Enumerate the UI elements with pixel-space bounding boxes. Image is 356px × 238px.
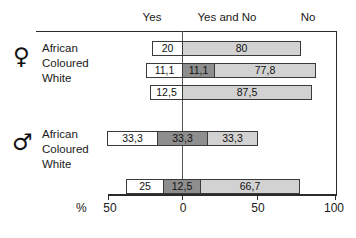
x-axis-line (108, 194, 337, 196)
male-gender-symbol-icon: ♂ (12, 131, 33, 154)
bar-segment-yes: 12,5 (150, 85, 183, 100)
bar-segment-yes-and-no: 12,5 (163, 179, 201, 194)
bar-segment-no: 87,5 (182, 85, 312, 100)
female-category-label-coloured: Coloured (42, 56, 89, 72)
bar-segment-yes-and-no: 11,1 (182, 63, 215, 78)
bar-segment-yes: 20 (152, 41, 183, 56)
bar-segment-no: 77,8 (214, 63, 316, 78)
male-category-label-african: African (42, 127, 78, 143)
bar-segment-yes: 33,3 (107, 131, 158, 146)
female-category-label-white: White (42, 71, 71, 87)
female-gender-symbol-icon: ♀ (13, 45, 30, 68)
bar-segment-no: 80 (182, 41, 301, 56)
bar-segment-yes: 11,1 (146, 63, 183, 78)
x-axis-tick-label: 50 (251, 201, 264, 215)
bar-segment-no: 66,7 (200, 179, 300, 194)
bar-segment-no: 33,3 (207, 131, 258, 146)
x-axis-tick (335, 194, 336, 200)
bar-segment-yes: 25 (126, 179, 164, 194)
stacked-bar-chart: Yes Yes and No No ♀ African Coloured Whi… (0, 0, 356, 238)
x-axis-tick (182, 194, 183, 200)
x-axis-tick-label: 0 (180, 201, 187, 215)
x-axis-tick-label: 50 (103, 201, 116, 215)
column-header-no: No (301, 11, 316, 23)
male-category-label-white: White (42, 157, 71, 173)
bar-segment-yes-and-no: 33,3 (157, 131, 208, 146)
male-category-label-coloured: Coloured (42, 142, 89, 158)
x-axis-tick (108, 194, 109, 200)
x-axis-tick-label: 100 (324, 201, 344, 215)
column-header-yes: Yes (143, 11, 162, 23)
female-category-label-african: African (42, 41, 78, 57)
x-axis-tick (257, 194, 258, 200)
column-header-yes-and-no: Yes and No (197, 11, 256, 23)
x-axis-unit-label: % (76, 201, 87, 215)
